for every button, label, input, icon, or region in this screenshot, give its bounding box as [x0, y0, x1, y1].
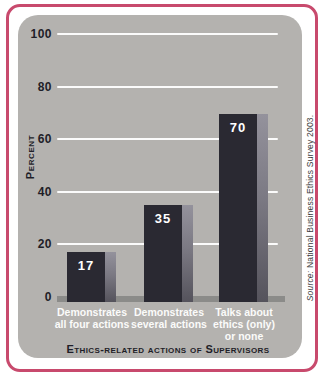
source-citation: Source: National Business Ethics Survey … [305, 115, 315, 302]
y-axis-title: Percent [24, 135, 36, 179]
bar-side-shade [182, 205, 193, 302]
x-axis-title: Ethics-related actions of Supervisors [48, 343, 288, 355]
bar-side-shade [257, 114, 268, 302]
bar-talks-about-ethics: 70 [219, 114, 268, 302]
category-label-line: or none [196, 330, 292, 342]
y-tick-label: 20 [20, 237, 52, 251]
chart-panel: 100 80 60 40 20 0 Percent 17 35 70 Demo [18, 15, 302, 358]
bar-value-label: 70 [219, 120, 257, 135]
source-text: National Business Ethics Survey 2003. [305, 115, 315, 271]
bar-demonstrates-all-four: 17 [67, 252, 116, 302]
bar-value-label: 17 [67, 258, 105, 273]
category-label-line: Talks about [196, 306, 292, 318]
gridline-100 [57, 33, 278, 35]
source-prefix: Source: [305, 271, 315, 302]
bar-value-label: 35 [144, 211, 182, 226]
y-tick-label: 100 [20, 27, 52, 41]
figure: 100 80 60 40 20 0 Percent 17 35 70 Demo [0, 0, 324, 376]
category-label-line: ethics (only) [196, 318, 292, 330]
bar-face: 35 [144, 205, 182, 302]
gridline-80 [57, 86, 278, 88]
y-tick-label: 40 [20, 185, 52, 199]
bar-demonstrates-several: 35 [144, 205, 193, 302]
bar-face: 17 [67, 252, 105, 302]
y-tick-label: 0 [20, 290, 52, 304]
bar-side-shade [105, 252, 116, 302]
category-label: Talks about ethics (only) or none [196, 306, 292, 342]
y-tick-label: 80 [20, 80, 52, 94]
bar-face: 70 [219, 114, 257, 302]
